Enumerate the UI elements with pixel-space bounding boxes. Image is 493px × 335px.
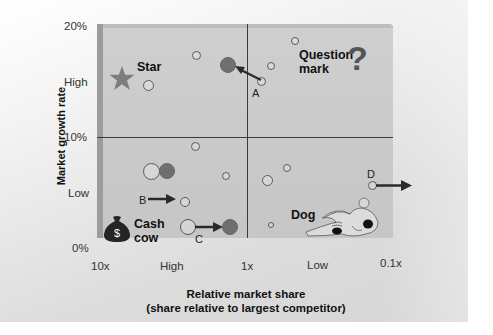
business-unit-circle-b-from	[143, 163, 160, 180]
movement-label-c: C	[195, 233, 203, 245]
cash-cow-label-line1: Cash	[134, 217, 165, 231]
y-tick-low: Low	[68, 187, 89, 199]
x-tick-0-1x: 0.1x	[380, 257, 402, 269]
business-unit-circle	[291, 37, 299, 45]
arrow-a-icon	[235, 66, 263, 82]
question-mark-label-line1: Question	[299, 48, 353, 62]
x-axis-title: Relative market share	[96, 288, 396, 300]
panel-bevel-top	[97, 24, 393, 28]
business-unit-circle	[191, 142, 200, 151]
arrow-b-icon	[148, 194, 176, 204]
question-mark-label-line2: mark	[299, 62, 329, 76]
y-tick-0: 0%	[72, 242, 89, 254]
horizontal-divider	[97, 137, 393, 138]
business-unit-circle	[180, 197, 190, 207]
x-tick-1x: 1x	[241, 260, 253, 272]
business-unit-circle	[267, 62, 275, 70]
x-tick-low: Low	[307, 259, 328, 271]
x-tick-10x: 10x	[91, 260, 110, 272]
money-bag-icon: $	[102, 215, 132, 243]
y-tick-10: 10%	[64, 131, 87, 143]
movement-label-b: B	[139, 194, 146, 206]
y-axis-title: Market growth rate	[55, 61, 67, 211]
cash-cow-label-line2: cow	[134, 231, 158, 245]
arrow-d-icon	[376, 180, 412, 191]
business-unit-circle	[262, 175, 273, 186]
y-tick-high: High	[64, 76, 88, 88]
movement-label-d: D	[367, 168, 375, 180]
business-unit-circle	[222, 172, 230, 180]
sleeping-dog-icon	[302, 196, 382, 240]
x-axis-subtitle: (share relative to largest competitor)	[96, 302, 396, 314]
arrow-c-icon	[195, 222, 223, 232]
vertical-divider	[247, 24, 248, 238]
business-unit-circle-c-to	[222, 219, 238, 235]
background-fade	[380, 0, 470, 322]
business-unit-circle-star-a	[220, 57, 236, 73]
svg-text:$: $	[114, 227, 120, 239]
panel-bevel-left	[97, 24, 103, 238]
question-mark-icon: ?	[347, 40, 368, 76]
business-unit-circle	[192, 51, 201, 60]
business-unit-circle	[143, 80, 154, 91]
x-tick-high: High	[160, 260, 184, 272]
star-label: Star	[137, 60, 161, 74]
movement-label-a: A	[252, 87, 259, 99]
business-unit-circle-b-to	[159, 163, 175, 179]
y-tick-20: 20%	[64, 20, 87, 32]
business-unit-circle-c-from	[180, 219, 196, 235]
business-unit-circle	[268, 222, 274, 228]
business-unit-circle	[283, 164, 291, 172]
star-icon	[109, 66, 135, 90]
